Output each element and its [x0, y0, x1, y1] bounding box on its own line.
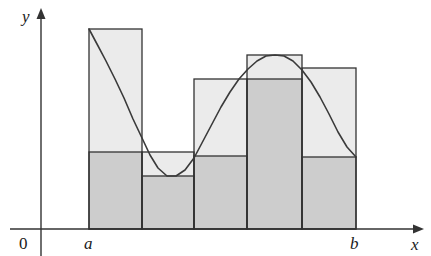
- figure-canvas: [0, 0, 431, 256]
- origin-label: 0: [19, 235, 28, 252]
- lower-sum-rectangle: [247, 79, 302, 229]
- x-tick-label-a: a: [84, 235, 93, 252]
- x-axis-label: x: [411, 236, 419, 253]
- y-axis-arrow-icon: [37, 8, 46, 19]
- lower-sum-rectangle: [194, 156, 247, 229]
- lower-sum-rectangle: [302, 157, 356, 229]
- riemann-sum-figure: 0 y x a b: [0, 0, 431, 256]
- x-axis-arrow-icon: [413, 225, 424, 234]
- y-axis-label: y: [22, 8, 30, 25]
- lower-sum-rectangle: [89, 152, 142, 229]
- x-tick-label-b: b: [350, 235, 359, 252]
- lower-sum-rectangle: [142, 176, 194, 229]
